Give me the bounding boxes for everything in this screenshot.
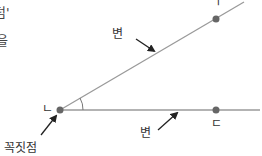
lower-point: [213, 107, 220, 114]
vertex-caption: 꼭짓점: [4, 138, 37, 155]
upper-side-label: 변: [112, 24, 123, 41]
vertex-point: [57, 107, 64, 114]
upper-side-arrow: [136, 39, 154, 51]
angle-arc: [80, 98, 83, 110]
upper-point-label: ㄱ: [210, 0, 221, 10]
vertex-label: ㄴ: [42, 99, 53, 116]
upper-point: [213, 16, 220, 23]
lower-side-arrow: [158, 113, 177, 130]
angle-diagram: [0, 0, 262, 156]
vertex-arrow: [41, 116, 56, 135]
lower-side-label: 변: [140, 123, 151, 140]
lower-point-label: ㄷ: [211, 114, 222, 131]
